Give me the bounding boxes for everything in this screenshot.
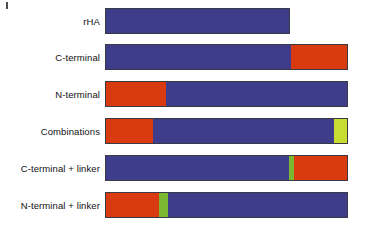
segment-fusion-partner-domain <box>106 193 159 217</box>
construct-bar <box>105 118 348 144</box>
construct-row: Combinations <box>0 118 370 144</box>
segment-albumin-domain <box>166 82 348 106</box>
segment-fusion-partner-domain <box>291 45 348 69</box>
segment-albumin-domain <box>106 9 290 33</box>
construct-row: rHA <box>0 8 370 34</box>
construct-bar <box>105 192 348 218</box>
segment-linker <box>159 193 168 217</box>
segment-albumin-domain <box>168 193 348 217</box>
construct-bar <box>105 81 348 107</box>
construct-row: N-terminal <box>0 81 370 107</box>
segment-fusion-partner-domain <box>106 119 153 143</box>
segment-albumin-domain <box>106 45 291 69</box>
construct-bar <box>105 44 348 70</box>
segment-albumin-domain <box>153 119 334 143</box>
construct-row: C-terminal + linker <box>0 155 370 181</box>
construct-diagram: rHAC-terminalN-terminalCombinationsC-ter… <box>0 0 370 237</box>
construct-row-label: N-terminal <box>0 89 100 100</box>
construct-row-label: rHA <box>0 16 100 27</box>
construct-row: N-terminal + linker <box>0 192 370 218</box>
construct-row-label: C-terminal <box>0 52 100 63</box>
segment-fusion-partner-domain <box>294 156 348 180</box>
segment-second-partner-domain <box>334 119 348 143</box>
construct-row-label: Combinations <box>0 126 100 137</box>
construct-bar <box>105 8 290 34</box>
construct-row: C-terminal <box>0 44 370 70</box>
segment-albumin-domain <box>106 156 289 180</box>
construct-row-label: N-terminal + linker <box>0 200 100 211</box>
construct-row-label: C-terminal + linker <box>0 163 100 174</box>
segment-fusion-partner-domain <box>106 82 166 106</box>
construct-bar <box>105 155 348 181</box>
